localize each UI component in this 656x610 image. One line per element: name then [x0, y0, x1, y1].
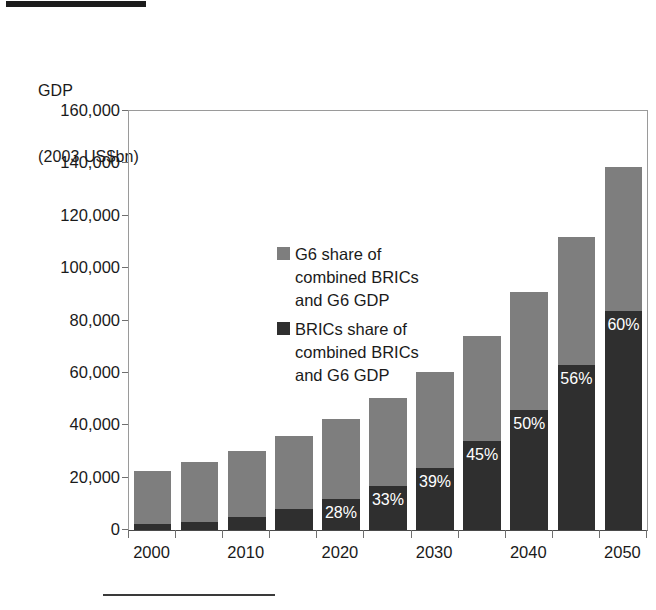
- bar-segment-g6: [369, 398, 407, 486]
- bar-group: [134, 471, 172, 530]
- footnote-separator-rule: [103, 594, 275, 596]
- bar-percentage-label: 45%: [463, 447, 501, 463]
- bar-group: 56%: [558, 237, 596, 530]
- x-axis-tick-mark: [646, 530, 647, 538]
- y-axis-tick-label: 20,000: [12, 469, 120, 485]
- legend-label-g6: G6 share of combined BRICs and G6 GDP: [295, 243, 419, 312]
- bar-percentage-label: 39%: [416, 474, 454, 490]
- bar-segment-g6: [322, 419, 360, 499]
- y-axis-tick-label: 40,000: [12, 416, 120, 432]
- y-axis-tick-label: 140,000: [12, 154, 120, 170]
- bar-segment-brics: [605, 311, 643, 530]
- bar-group: 33%: [369, 398, 407, 530]
- plot-area: 28%33%39%45%50%56%60% G6 share of combin…: [128, 110, 648, 531]
- legend-entry-brics: BRICs share of combined BRICs and G6 GDP: [277, 318, 507, 387]
- x-axis-tick-mark: [552, 530, 553, 538]
- y-axis-tick-label: 100,000: [12, 259, 120, 275]
- bar-segment-brics: [181, 522, 219, 530]
- legend-swatch-brics-icon: [277, 322, 290, 335]
- x-axis-tick-mark: [599, 530, 600, 538]
- x-axis-tick-mark: [458, 530, 459, 538]
- bar-group: [181, 462, 219, 530]
- bar-segment-g6: [510, 292, 548, 410]
- bar-segment-g6: [228, 451, 266, 517]
- x-axis-tick-mark: [316, 530, 317, 538]
- bar-group: 50%: [510, 292, 548, 530]
- bar-group: 60%: [605, 167, 643, 530]
- bar-segment-g6: [134, 471, 172, 524]
- bar-percentage-label: 56%: [558, 371, 596, 387]
- legend-label-brics: BRICs share of combined BRICs and G6 GDP: [295, 318, 419, 387]
- y-axis-tick-labels: 020,00040,00060,00080,000100,000120,0001…: [10, 110, 120, 529]
- bar-group: [228, 451, 266, 530]
- x-axis-tick-label: 2040: [510, 542, 547, 562]
- bar-percentage-label: 60%: [605, 317, 643, 333]
- bar-segment-g6: [275, 436, 313, 509]
- x-axis-tick-mark: [269, 530, 270, 538]
- x-axis-tick-mark: [128, 530, 129, 538]
- chart-legend: G6 share of combined BRICs and G6 GDPBRI…: [277, 243, 507, 393]
- bar-segment-brics: [558, 365, 596, 530]
- x-axis-tick-labels: 200020102020203020402050: [128, 542, 647, 568]
- y-axis-tick-label: 80,000: [12, 312, 120, 328]
- bar-group: 39%: [416, 372, 454, 530]
- legend-swatch-g6-icon: [277, 247, 290, 260]
- bar-segment-brics: [228, 517, 266, 530]
- legend-entry-g6: G6 share of combined BRICs and G6 GDP: [277, 243, 507, 312]
- x-axis-tick-label: 2030: [416, 542, 453, 562]
- bar-group: 28%: [322, 419, 360, 530]
- x-axis-tick-mark: [363, 530, 364, 538]
- bar-percentage-label: 28%: [322, 505, 360, 521]
- x-axis-tick-mark: [505, 530, 506, 538]
- bar-percentage-label: 50%: [510, 416, 548, 432]
- y-axis-tick-label: 0: [12, 521, 120, 537]
- x-axis-tick-label: 2000: [133, 542, 170, 562]
- y-axis-title-line1: GDP: [38, 80, 139, 102]
- x-axis-tick-mark: [175, 530, 176, 538]
- x-axis-tick-label: 2050: [604, 542, 641, 562]
- y-axis-tick-label: 60,000: [12, 364, 120, 380]
- bar-segment-g6: [558, 237, 596, 365]
- x-axis-tick-mark: [222, 530, 223, 538]
- y-axis-tick-label: 160,000: [12, 102, 120, 118]
- bar-segment-g6: [605, 167, 643, 311]
- bar-segment-g6: [181, 462, 219, 522]
- x-axis-tick-marks: [128, 530, 647, 538]
- y-axis-tick-label: 120,000: [12, 207, 120, 223]
- x-axis-tick-label: 2020: [322, 542, 359, 562]
- x-axis-tick-mark: [411, 530, 412, 538]
- bar-group: [275, 436, 313, 530]
- top-header-rule: [6, 1, 146, 7]
- x-axis-tick-label: 2010: [227, 542, 264, 562]
- bar-percentage-label: 33%: [369, 492, 407, 508]
- bar-segment-brics: [275, 509, 313, 530]
